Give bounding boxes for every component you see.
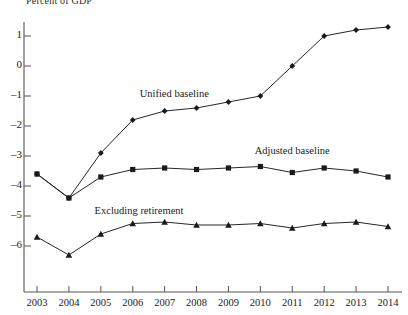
y-axis-tick-label: –2	[0, 118, 22, 130]
series-unified-baseline	[34, 24, 391, 201]
x-axis-tick-label: 2007	[148, 297, 182, 308]
y-axis-tick-label: –6	[0, 238, 22, 250]
x-axis-tick-label: 2013	[339, 297, 373, 308]
chart-plot-area	[0, 0, 408, 315]
y-axis-tick-label: –1	[0, 88, 22, 100]
y-axis-tick-label: –4	[0, 178, 22, 190]
chart-container: Percent of GDP 10–1–2–3–4–5–6 2003200420…	[0, 0, 408, 315]
series-label-adjusted-baseline: Adjusted baseline	[255, 145, 330, 156]
x-axis-tick-label: 2005	[84, 297, 118, 308]
x-axis-tick-label: 2011	[275, 297, 309, 308]
series-excluding-retirement	[34, 219, 392, 258]
x-axis-tick-label: 2008	[180, 297, 214, 308]
series-label-unified-baseline: Unified baseline	[140, 88, 209, 99]
series-label-excluding-retirement: Excluding retirement	[95, 205, 184, 216]
x-axis-tick-label: 2010	[243, 297, 277, 308]
x-axis-tick-label: 2012	[307, 297, 341, 308]
x-axis-tick-label: 2004	[52, 297, 86, 308]
y-axis-tick-label: 0	[0, 58, 22, 70]
x-axis-tick-label: 2006	[116, 297, 150, 308]
y-axis-tick-label: 1	[0, 28, 22, 40]
x-axis-tick-label: 2014	[371, 297, 405, 308]
x-axis-tick-label: 2009	[211, 297, 245, 308]
series-adjusted-baseline	[34, 164, 390, 201]
y-axis-tick-label: –3	[0, 148, 22, 160]
y-axis-tick-label: –5	[0, 208, 22, 220]
chart-axes	[24, 22, 402, 292]
chart-series-group	[34, 24, 392, 258]
x-axis-tick-label: 2003	[20, 297, 54, 308]
